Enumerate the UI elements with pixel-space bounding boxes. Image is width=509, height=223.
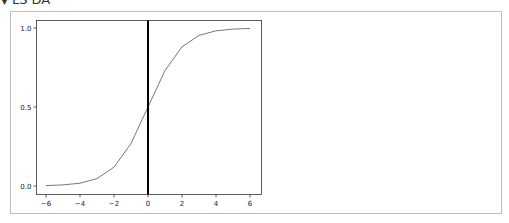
x-tick-label: −6 xyxy=(41,200,52,208)
sigmoid-chart: 0.00.51.0 −6−4−20246 xyxy=(0,0,509,223)
y-tick-label: 1.0 xyxy=(20,25,31,33)
y-tick-label: 0.5 xyxy=(20,104,31,112)
x-tick-label: 6 xyxy=(248,200,253,208)
x-tick-label: 4 xyxy=(214,200,219,208)
x-axis-ticks: −6−4−20246 xyxy=(41,195,253,208)
x-tick-label: −2 xyxy=(109,200,119,208)
y-tick-label: 0.0 xyxy=(20,183,31,191)
x-tick-label: −4 xyxy=(75,200,86,208)
x-tick-label: 2 xyxy=(180,200,184,208)
x-tick-label: 0 xyxy=(146,200,150,208)
y-axis-ticks: 0.00.51.0 xyxy=(20,25,36,191)
